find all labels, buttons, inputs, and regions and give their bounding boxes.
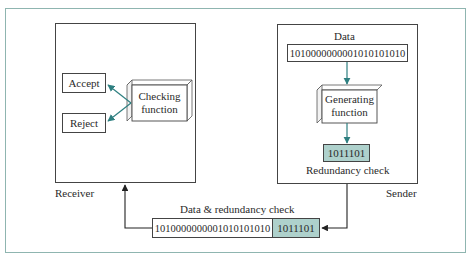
checking-function-line2: function xyxy=(132,103,187,116)
arrow-sender-to-channel xyxy=(322,184,347,228)
checking-function-label: Checking function xyxy=(132,90,187,116)
connectors-layer xyxy=(0,0,476,259)
checking-function-line1: Checking xyxy=(132,90,187,103)
generating-function-line1: Generating xyxy=(322,93,377,106)
arrow-channel-to-receiver xyxy=(125,185,152,228)
generating-function-label: Generating function xyxy=(322,93,377,119)
generating-function-line2: function xyxy=(322,106,377,119)
